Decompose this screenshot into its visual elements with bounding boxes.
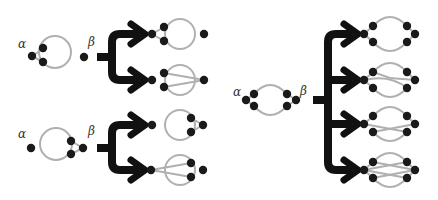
right-bracket-spine	[328, 34, 336, 170]
top-left-result-0-node	[160, 37, 168, 45]
right-result-1-arc-edge	[373, 63, 407, 72]
bottom-left-source-node	[67, 150, 75, 158]
top-left-source-node	[39, 58, 47, 66]
right-result-0-arc-edge	[373, 42, 407, 51]
top-left-source-node	[28, 52, 36, 60]
right-result-0-node	[411, 30, 419, 38]
top-left-result-0-loop	[165, 19, 195, 49]
right-source-node	[283, 102, 291, 110]
top-left-result-1-node	[148, 76, 156, 84]
right-result-0-node	[403, 22, 411, 30]
right-result-0-node	[369, 22, 377, 30]
bottom-left-result-1-edge	[151, 163, 191, 170]
right-result-1-node	[403, 68, 411, 76]
right-result-2-node	[369, 112, 377, 120]
diagram-canvas: α β α β α β	[0, 0, 438, 200]
top-left-source-node	[39, 44, 47, 52]
right-result-1-node	[360, 76, 368, 84]
right-source-node	[292, 96, 300, 104]
top-left-source-node	[80, 53, 88, 61]
right-result-2-node	[369, 128, 377, 136]
right-result-0-arc-edge	[373, 17, 407, 26]
right-result-3-node	[369, 174, 377, 182]
diagram-svg	[0, 0, 438, 200]
right-result-2-node	[403, 112, 411, 120]
bottom-left-result-0-node	[187, 114, 195, 122]
alpha-label-top-left: α	[18, 38, 26, 50]
right-result-1-node	[369, 84, 377, 92]
right-result-3-arc-edge	[373, 178, 407, 187]
right-result-3-node	[411, 166, 419, 174]
top-left-result-1-node	[160, 69, 168, 77]
right-result-2-arc-edge	[373, 107, 407, 116]
top-left-result-1-loop	[165, 65, 195, 95]
bottom-left-result-0-node	[148, 121, 156, 129]
bottom-left-result-1-node	[187, 159, 195, 167]
right-result-3-arc-edge	[373, 153, 407, 162]
beta-label-right: β	[300, 85, 307, 97]
right-result-2-node	[360, 120, 368, 128]
right-source-node	[283, 90, 291, 98]
bottom-left-source-node	[79, 144, 87, 152]
right-result-2-node	[403, 128, 411, 136]
top-left-result-1-edge	[164, 73, 204, 80]
bottom-left-result-1-node	[147, 166, 155, 174]
right-source-arc-edge	[254, 85, 287, 94]
bottom-left-result-0-node	[199, 121, 207, 129]
top-left-bracket-spine	[112, 34, 120, 80]
bottom-left-result-1-node	[187, 173, 195, 181]
beta-label-bottom-left: β	[88, 125, 95, 137]
right-result-2-arc-edge	[373, 132, 407, 141]
right-result-1-node	[411, 76, 419, 84]
right-result-0-node	[369, 38, 377, 46]
right-source-arc-edge	[254, 106, 287, 115]
right-source-node	[242, 96, 250, 104]
right-result-3-node	[403, 158, 411, 166]
alpha-label-right: α	[233, 86, 241, 98]
bottom-left-result-1-edge	[151, 170, 191, 177]
bottom-left-source-node	[27, 144, 35, 152]
bottom-left-result-0-node	[187, 128, 195, 136]
right-source-node	[250, 102, 258, 110]
right-result-3-node	[403, 174, 411, 182]
bottom-left-source-node	[67, 137, 75, 145]
right-result-3-node	[360, 166, 368, 174]
bottom-left-result-1-node	[199, 166, 207, 174]
beta-label-top-left: β	[88, 36, 95, 48]
right-source-node	[250, 90, 258, 98]
top-left-result-0-node	[148, 30, 156, 38]
alpha-label-bottom-left: α	[18, 128, 26, 140]
right-result-1-arc-edge	[373, 88, 407, 97]
bottom-left-bracket-spine	[112, 125, 120, 170]
right-result-3-node	[369, 158, 377, 166]
top-left-result-1-node	[160, 83, 168, 91]
top-left-result-1-edge	[164, 80, 204, 87]
top-left-result-0-node	[160, 23, 168, 31]
right-result-2-node	[411, 120, 419, 128]
top-left-result-0-node	[200, 30, 208, 38]
right-result-1-node	[403, 84, 411, 92]
right-result-0-node	[403, 38, 411, 46]
right-result-1-node	[369, 68, 377, 76]
top-left-result-1-node	[200, 76, 208, 84]
right-result-0-node	[360, 30, 368, 38]
